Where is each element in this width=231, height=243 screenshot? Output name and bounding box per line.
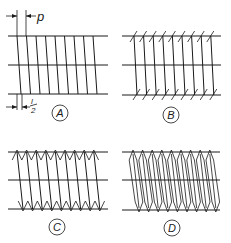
pitch-label: p xyxy=(36,9,44,24)
panel-d: D xyxy=(122,150,220,236)
thread-root-line xyxy=(143,154,149,208)
thread-root-line xyxy=(133,154,139,208)
thread-profile-left xyxy=(196,150,206,212)
diagram-canvas: ABCD p l 2 xyxy=(0,0,231,243)
thread-profile-left xyxy=(129,150,139,212)
thread-profile-right xyxy=(133,150,143,212)
thread-profile-right xyxy=(143,150,153,212)
thread-profile-left xyxy=(177,150,187,212)
thread-root-line xyxy=(162,154,168,208)
panel-label: B xyxy=(167,109,174,121)
thread-root-line xyxy=(191,154,197,208)
thread-root-line xyxy=(152,154,158,208)
panel-label: D xyxy=(168,222,176,234)
thread-root-line xyxy=(171,154,177,208)
thread-profile-right xyxy=(200,150,210,212)
thread-profile-left xyxy=(187,150,197,212)
panel-label: C xyxy=(53,221,61,233)
thread-profile-right xyxy=(152,150,162,212)
thread-profile-left xyxy=(139,150,149,212)
thread-profile-right xyxy=(210,150,220,212)
thread-profile-right xyxy=(171,150,181,212)
thread-profile-left xyxy=(206,150,216,212)
arrowhead-icon xyxy=(22,105,27,109)
dimension-annotations: p l 2 xyxy=(6,9,44,115)
panel-label: A xyxy=(55,107,63,119)
half-lead-denominator: 2 xyxy=(30,106,36,115)
thread-root-line xyxy=(210,154,216,208)
thread-profile-right xyxy=(191,150,201,212)
arrowhead-icon xyxy=(12,105,17,109)
half-lead-numerator: l xyxy=(31,97,33,106)
thread-profile-left xyxy=(168,150,178,212)
thread-profile-left xyxy=(158,150,168,212)
arrowhead-icon xyxy=(26,14,31,18)
thread-profile-left xyxy=(148,150,158,212)
arrowhead-icon xyxy=(12,14,17,18)
thread-representation-diagram: ABCD p l 2 xyxy=(0,0,231,243)
panel-b: B xyxy=(122,31,221,123)
panel-c: C xyxy=(8,150,108,235)
thread-profile-right xyxy=(181,150,191,212)
panel-a: A xyxy=(8,36,108,121)
thread-root-line xyxy=(181,154,187,208)
thread-root-line xyxy=(200,154,206,208)
thread-profile-right xyxy=(162,150,172,212)
